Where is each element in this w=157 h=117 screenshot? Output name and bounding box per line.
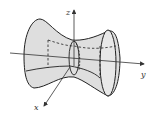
x-axis-label: x	[34, 104, 39, 112]
y-axis-label: y	[141, 71, 146, 79]
z-axis-label: z	[66, 9, 70, 17]
right-rim	[100, 30, 116, 96]
hyperboloid-diagram	[0, 0, 157, 117]
